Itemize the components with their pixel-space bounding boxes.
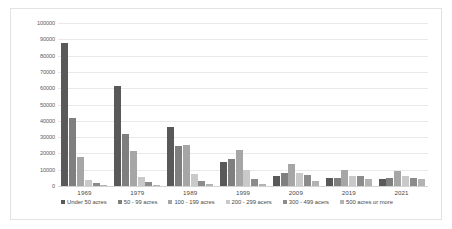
bar	[77, 157, 84, 186]
bar	[281, 173, 288, 186]
bar	[326, 178, 333, 186]
bar	[341, 170, 348, 186]
y-axis-tick-label: 70000	[17, 69, 55, 75]
legend-label: Under 50 acres	[67, 199, 107, 205]
gridline	[58, 186, 428, 187]
bar	[296, 173, 303, 186]
bar	[410, 178, 417, 186]
bar	[236, 150, 243, 186]
bar	[138, 177, 145, 186]
chart-card: 1000009000080000700006000050000400003000…	[10, 8, 442, 220]
legend-label: 500 acres or more	[346, 199, 393, 205]
bar	[334, 178, 341, 186]
legend-swatch-icon	[118, 200, 122, 204]
chart-legend: Under 50 acres50 - 99 acres100 - 199 acr…	[11, 199, 443, 205]
bar	[259, 184, 266, 186]
legend-label: 300 - 499 acers	[289, 199, 329, 205]
legend-swatch-icon	[226, 200, 230, 204]
legend-label: 50 - 99 acres	[124, 199, 158, 205]
bar	[100, 185, 107, 186]
bar	[365, 179, 372, 186]
bar	[386, 178, 393, 186]
y-axis-tick-label: 30000	[17, 134, 55, 140]
bar	[175, 146, 182, 186]
bar-group	[322, 23, 375, 186]
bar-group	[58, 23, 111, 186]
legend-swatch-icon	[283, 200, 287, 204]
legend-item[interactable]: 300 - 499 acers	[283, 199, 329, 205]
bar	[191, 174, 198, 186]
bar	[243, 170, 250, 186]
y-axis-tick-label: 50000	[17, 102, 55, 108]
bar	[312, 181, 319, 186]
bar	[228, 159, 235, 186]
bar	[130, 151, 137, 186]
bar	[206, 184, 213, 186]
y-axis-tick-label: 60000	[17, 85, 55, 91]
legend-item[interactable]: 50 - 99 acres	[118, 199, 158, 205]
bar	[251, 179, 258, 186]
y-axis-tick-label: 40000	[17, 118, 55, 124]
bar	[349, 176, 356, 186]
legend-swatch-icon	[340, 200, 344, 204]
plot-area	[58, 23, 428, 186]
legend-label: 200 - 299 acers	[232, 199, 272, 205]
legend-label: 100 - 199 acres	[174, 199, 214, 205]
legend-item[interactable]: Under 50 acres	[61, 199, 107, 205]
bar	[93, 183, 100, 186]
bar	[402, 176, 409, 186]
bar	[379, 179, 386, 186]
bar	[145, 182, 152, 186]
bar-group	[164, 23, 217, 186]
bar	[357, 176, 364, 186]
y-axis-tick-label: 100000	[17, 20, 55, 26]
bar	[273, 176, 280, 186]
bar	[69, 118, 76, 186]
bar	[122, 134, 129, 186]
bar	[304, 175, 311, 186]
bar	[167, 127, 174, 186]
legend-swatch-icon	[168, 200, 172, 204]
bar	[288, 164, 295, 186]
bar-group	[375, 23, 428, 186]
bar	[198, 181, 205, 186]
bar	[220, 162, 227, 186]
bars-layer	[58, 23, 428, 186]
y-axis: 1000009000080000700006000050000400003000…	[17, 23, 55, 186]
legend-swatch-icon	[61, 200, 65, 204]
y-axis-tick-label: 10000	[17, 167, 55, 173]
legend-item[interactable]: 500 acres or more	[340, 199, 393, 205]
y-axis-tick-label: 80000	[17, 53, 55, 59]
bar-group	[269, 23, 322, 186]
bar	[114, 86, 121, 186]
bar	[61, 43, 68, 186]
bar	[183, 145, 190, 186]
bar	[153, 185, 160, 186]
bar-group	[111, 23, 164, 186]
legend-item[interactable]: 100 - 199 acres	[168, 199, 214, 205]
legend-item[interactable]: 200 - 299 acers	[226, 199, 272, 205]
y-axis-tick-label: 90000	[17, 36, 55, 42]
y-axis-tick-label: 20000	[17, 150, 55, 156]
bar-group	[217, 23, 270, 186]
bar	[394, 171, 401, 186]
y-axis-tick-label: 0	[17, 183, 55, 189]
bar	[418, 179, 425, 186]
bar	[85, 180, 92, 186]
